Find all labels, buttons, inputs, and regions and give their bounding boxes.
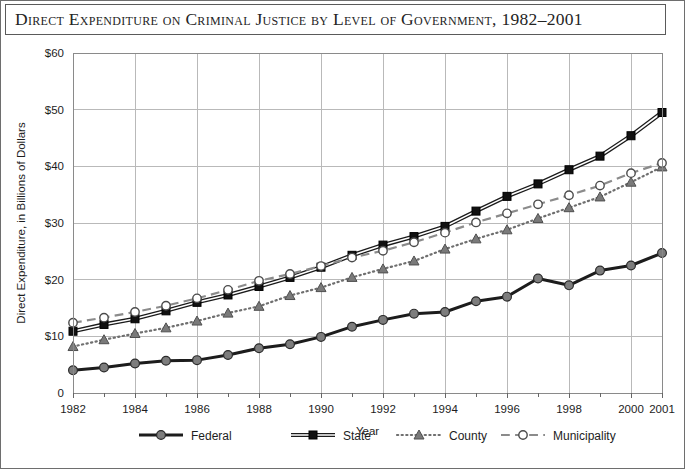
data-point-marker: [286, 270, 294, 278]
data-point-marker: [596, 181, 604, 189]
data-point-marker: [565, 191, 573, 199]
data-point-marker: [503, 292, 512, 301]
data-point-marker: [131, 308, 139, 316]
x-axis-tick-label: 1988: [246, 403, 272, 415]
x-axis-tick-label: 1992: [370, 403, 396, 415]
x-axis-tick-label: 1984: [122, 403, 148, 415]
y-axis-tick-label: $10: [45, 330, 64, 342]
x-axis-tick-label: 1998: [556, 403, 582, 415]
legend-swatch-marker: [157, 431, 166, 440]
data-point-marker: [286, 340, 295, 349]
data-point-marker: [441, 308, 450, 317]
data-point-marker: [627, 132, 635, 140]
data-point-marker: [627, 261, 636, 270]
legend-label: Federal: [191, 429, 232, 443]
gridlines: [73, 53, 662, 393]
legend-label: Municipality: [553, 429, 616, 443]
x-axis-tick-label: 2001: [649, 403, 675, 415]
data-point-marker: [565, 281, 574, 290]
y-axis-title: Direct Expenditure, in Billions of Dolla…: [15, 122, 27, 324]
y-axis-tick-label: $30: [45, 217, 64, 229]
data-point-marker: [162, 302, 170, 310]
data-point-marker: [255, 344, 264, 353]
series-state: [69, 109, 666, 336]
x-axis-tick-label: 2000: [618, 403, 644, 415]
data-point-marker: [410, 238, 418, 246]
data-point-marker: [441, 228, 449, 236]
data-point-marker: [503, 192, 511, 200]
data-point-marker: [472, 218, 480, 226]
series-municipality: [69, 159, 666, 327]
data-point-marker: [193, 356, 202, 365]
data-point-marker: [503, 209, 511, 217]
legend-item-federal[interactable]: Federal: [139, 429, 232, 443]
data-point-marker: [131, 359, 140, 368]
legend-swatch-marker: [309, 431, 317, 439]
legend-item-county[interactable]: County: [397, 429, 487, 443]
legend-item-state[interactable]: State: [291, 429, 371, 443]
data-point-marker: [565, 166, 573, 174]
chart-title-box: Direct Expenditure on Criminal Justice b…: [5, 4, 666, 35]
x-axis-tick-label: 1996: [494, 403, 520, 415]
data-point-marker: [255, 277, 263, 285]
x-axis-tick-label: 1990: [308, 403, 334, 415]
data-point-marker: [100, 363, 109, 372]
data-point-marker: [410, 309, 419, 318]
axis-labels: 0$10$20$30$40$50$60198219841986198819901…: [15, 47, 675, 437]
data-point-marker: [472, 207, 480, 215]
data-point-marker: [379, 316, 388, 325]
y-axis-tick-label: $40: [45, 160, 64, 172]
x-axis-tick-label: 1986: [184, 403, 210, 415]
data-point-marker: [626, 177, 636, 186]
data-point-marker: [348, 253, 356, 261]
legend-label: County: [449, 429, 487, 443]
data-point-marker: [224, 351, 233, 360]
data-series-layer: [68, 109, 667, 375]
series-line-inner: [73, 113, 662, 332]
legend-label: State: [343, 429, 371, 443]
legend-item-municipality[interactable]: Municipality: [501, 429, 616, 443]
y-axis-tick-label: $60: [45, 47, 64, 59]
data-point-marker: [100, 313, 108, 321]
data-point-marker: [379, 247, 387, 255]
data-point-marker: [595, 192, 605, 201]
x-axis-tick-label: 1994: [432, 403, 458, 415]
y-axis-tick-label: $20: [45, 274, 64, 286]
legend-swatch-marker: [519, 431, 527, 439]
series-line-outer: [73, 113, 662, 332]
x-axis-tick-label: 1982: [60, 403, 86, 415]
chart-figure: Direct Expenditure on Criminal Justice b…: [0, 0, 685, 469]
data-point-marker: [534, 180, 542, 188]
line-chart: 0$10$20$30$40$50$60198219841986198819901…: [1, 35, 685, 469]
page-title: Direct Expenditure on Criminal Justice b…: [15, 9, 583, 30]
data-point-marker: [596, 152, 604, 160]
data-point-marker: [317, 262, 325, 270]
data-point-marker: [348, 322, 357, 331]
data-point-marker: [534, 274, 543, 283]
y-axis-tick-label: $50: [45, 104, 64, 116]
data-point-marker: [162, 356, 171, 365]
data-point-marker: [224, 286, 232, 294]
data-point-marker: [472, 297, 481, 306]
data-point-marker: [627, 169, 635, 177]
data-point-marker: [317, 333, 326, 342]
data-point-marker: [193, 294, 201, 302]
series-line: [73, 163, 662, 323]
data-point-marker: [534, 200, 542, 208]
y-axis-tick-label: 0: [58, 387, 64, 399]
data-point-marker: [596, 266, 605, 275]
